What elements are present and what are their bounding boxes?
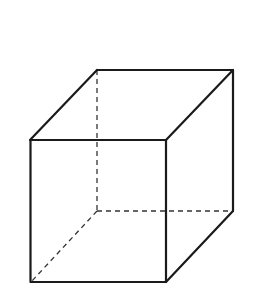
edge-top-right-depth [166, 70, 233, 140]
edge-bottom-right-depth [166, 211, 233, 282]
edge-top-left-depth [30, 70, 97, 140]
cube-diagram [0, 0, 254, 303]
hidden-edge-bottom-left-depth [31, 211, 97, 282]
